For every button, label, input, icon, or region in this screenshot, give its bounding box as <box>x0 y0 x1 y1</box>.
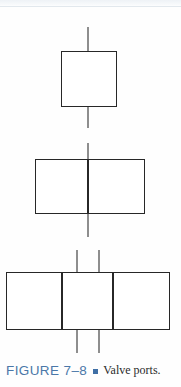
figure-caption-text: Valve ports. <box>103 363 160 378</box>
figure-caption: FIGURE 7–8 Valve ports. <box>6 360 181 380</box>
valve-port-line-bottom-2 <box>87 214 89 237</box>
valve-port-line-bottom-3b <box>98 330 100 353</box>
figure-caption-number: FIGURE 7–8 <box>6 363 87 378</box>
valve-port-line-bottom-3a <box>76 330 78 353</box>
valve-cell-divider-2a <box>87 159 89 214</box>
valve-body-four-way <box>6 272 170 330</box>
valve-ports-figure <box>0 0 181 356</box>
valve-port-line-top-2 <box>87 143 89 159</box>
valve-port-line-top-3a <box>76 250 78 272</box>
valve-port-line-top-3b <box>98 250 100 272</box>
valve-body-three-way <box>35 159 145 214</box>
valve-body-two-way <box>61 51 117 107</box>
valve-cell-divider-3a <box>61 272 63 330</box>
valve-port-line-top-1 <box>87 27 89 51</box>
square-bullet-icon <box>93 369 98 374</box>
valve-cell-divider-3b <box>112 272 114 330</box>
valve-port-line-bottom-1 <box>87 107 89 128</box>
